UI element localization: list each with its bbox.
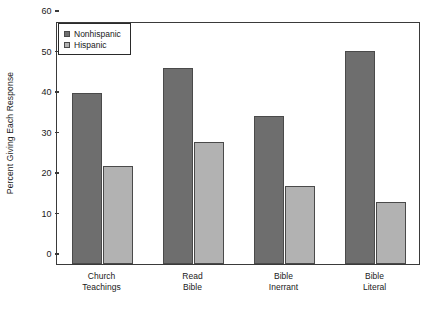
bar-hispanic-bible-inerrant: [285, 186, 315, 264]
x-axis-label-line: Bible: [234, 271, 334, 282]
bar-group: [163, 23, 224, 264]
y-axis-tick: 0: [46, 249, 57, 259]
x-axis-label-line: Teachings: [52, 282, 152, 293]
bar-group: [254, 23, 315, 264]
y-axis-tick: 10: [41, 209, 57, 219]
y-axis-tick-label: 30: [41, 128, 54, 138]
bar-hispanic-read-bible: [194, 142, 224, 264]
y-axis-tick: 30: [41, 128, 57, 138]
x-axis-label: BibleLiteral: [325, 271, 425, 293]
x-axis-label: ChurchTeachings: [52, 271, 152, 293]
y-axis-tick-mark: [55, 253, 59, 255]
y-axis-tick-label: 50: [41, 47, 54, 57]
y-axis-title: Percent Giving Each Response: [0, 0, 20, 265]
x-axis-label-line: Bible: [143, 282, 243, 293]
y-axis-tick-mark: [55, 91, 59, 93]
bar-nonhispanic-bible-literal: [345, 51, 375, 264]
y-axis-tick-label: 40: [41, 87, 54, 97]
bar-nonhispanic-read-bible: [163, 68, 193, 264]
y-axis-tick-mark: [55, 213, 59, 215]
y-axis-tick: 60: [41, 6, 57, 16]
y-axis-tick-label: 10: [41, 209, 54, 219]
plot-inner: 0102030405060: [57, 23, 419, 264]
y-axis-tick-mark: [55, 172, 59, 174]
bar-hispanic-bible-literal: [376, 202, 406, 264]
x-axis-label-line: Church: [52, 271, 152, 282]
legend-swatch-icon: [64, 42, 70, 48]
y-axis-title-text: Percent Giving Each Response: [5, 71, 15, 193]
bar-group: [72, 23, 133, 264]
y-axis-tick: 40: [41, 87, 57, 97]
bar-hispanic-church-teachings: [103, 166, 133, 264]
x-axis-label: ReadBible: [143, 271, 243, 293]
plot-area: 0102030405060: [56, 22, 420, 265]
chart-legend: NonhispanicHispanic: [58, 23, 131, 55]
x-axis-label-line: Bible: [325, 271, 425, 282]
bar-nonhispanic-bible-inerrant: [254, 116, 284, 264]
y-axis-tick: 50: [41, 47, 57, 57]
x-axis-label-line: Read: [143, 271, 243, 282]
x-axis-label-line: Inerrant: [234, 282, 334, 293]
legend-item-label: Nonhispanic: [74, 29, 121, 39]
legend-item-label: Hispanic: [74, 40, 107, 50]
legend-item-hispanic: Hispanic: [64, 39, 121, 50]
legend-swatch-icon: [64, 31, 70, 37]
y-axis-tick-mark: [55, 10, 59, 12]
y-axis-tick-label: 20: [41, 168, 54, 178]
bar-group: [345, 23, 406, 264]
x-axis-label: BibleInerrant: [234, 271, 334, 293]
y-axis-tick: 20: [41, 168, 57, 178]
y-axis-tick-mark: [55, 132, 59, 134]
y-axis-tick-label: 0: [46, 249, 54, 259]
bar-nonhispanic-church-teachings: [72, 93, 102, 264]
y-axis-tick-label: 60: [41, 6, 54, 16]
bar-chart-figure: Percent Giving Each Response 01020304050…: [0, 0, 439, 309]
legend-item-nonhispanic: Nonhispanic: [64, 28, 121, 39]
x-axis-label-line: Literal: [325, 282, 425, 293]
